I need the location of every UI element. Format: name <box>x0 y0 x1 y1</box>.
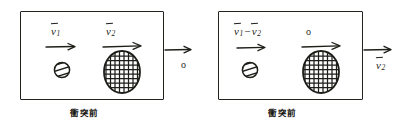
collision-diagram: v1 v2 <box>0 0 403 129</box>
panel-right-external-arrow-label: v2 <box>376 60 385 72</box>
panel-right-large-hatched-ellipse <box>303 50 340 95</box>
panel-left: v1 v2 <box>0 0 206 129</box>
panel-right-small-striped-ball <box>240 60 260 78</box>
panel-left-external-arrow-label: o <box>181 60 186 70</box>
panel-right: v1−v2 o <box>198 0 403 129</box>
panel-right-caption: 衝突前 <box>268 106 297 118</box>
panel-right-external-arrow <box>364 46 391 53</box>
panel-left-large-hatched-ellipse <box>104 50 141 95</box>
panel-right-graphics <box>198 0 403 129</box>
panel-right-arrow-small-ball <box>237 44 265 50</box>
panel-left-arrow-large-ball <box>103 43 141 50</box>
panel-left-caption: 衝突前 <box>70 106 99 118</box>
panel-left-graphics <box>0 0 206 129</box>
panel-left-small-striped-ball <box>52 60 72 78</box>
panel-left-arrow-small-ball <box>46 44 75 50</box>
panel-left-external-arrow <box>165 46 191 53</box>
panel-right-arrow-large-ball <box>302 43 340 50</box>
